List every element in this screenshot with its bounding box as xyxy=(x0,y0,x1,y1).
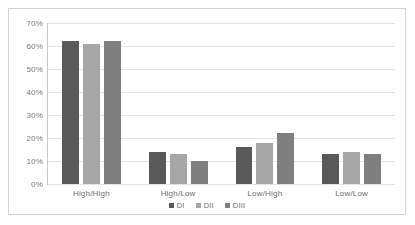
y-axis-tick-label: 70% xyxy=(26,19,43,28)
legend-item-DIII[interactable]: DIII xyxy=(225,201,245,210)
bar-DIII-High-Low xyxy=(191,161,208,184)
legend-swatch-icon xyxy=(196,203,201,208)
legend-swatch-icon xyxy=(169,203,174,208)
bar-DII-High-Low xyxy=(170,154,187,184)
bar-DIII-High-High xyxy=(104,41,121,184)
legend-label: DI xyxy=(177,201,185,210)
x-axis-category-label: High/Low xyxy=(135,189,222,198)
bar-DI-Low-Low xyxy=(322,154,339,184)
y-axis-tick-label: 30% xyxy=(26,111,43,120)
gridline-0: 0% xyxy=(48,184,395,185)
y-axis-tick-label: 60% xyxy=(26,42,43,51)
bar-group: High/Low xyxy=(135,23,222,184)
bar-DII-Low-High xyxy=(256,143,273,184)
bar-DII-High-High xyxy=(83,44,100,184)
legend-item-DII[interactable]: DII xyxy=(196,201,214,210)
bar-DIII-Low-Low xyxy=(364,154,381,184)
y-axis-tick-label: 20% xyxy=(26,134,43,143)
legend-swatch-icon xyxy=(225,203,230,208)
plot-area: 0%10%20%30%40%50%60%70% High/HighHigh/Lo… xyxy=(47,23,395,185)
y-axis-tick-label: 0% xyxy=(31,180,43,189)
y-axis-tick-label: 40% xyxy=(26,88,43,97)
y-axis-tick-label: 50% xyxy=(26,65,43,74)
bar-DI-High-High xyxy=(62,41,79,184)
legend-label: DIII xyxy=(233,201,245,210)
legend-item-DI[interactable]: DI xyxy=(169,201,185,210)
bar-DIII-Low-High xyxy=(277,133,294,184)
x-axis-category-label: Low/Low xyxy=(308,189,395,198)
bar-group: Low/High xyxy=(222,23,309,184)
bar-group: High/High xyxy=(48,23,135,184)
chart-legend: DIDIIDIII xyxy=(9,201,405,210)
y-axis-tick-label: 10% xyxy=(26,157,43,166)
bar-DI-High-Low xyxy=(149,152,166,184)
x-axis-category-label: Low/High xyxy=(222,189,309,198)
bar-DI-Low-High xyxy=(236,147,253,184)
bar-DII-Low-Low xyxy=(343,152,360,184)
bar-groups: High/HighHigh/LowLow/HighLow/Low xyxy=(48,23,395,184)
bar-group: Low/Low xyxy=(308,23,395,184)
x-axis-category-label: High/High xyxy=(48,189,135,198)
chart-frame: 0%10%20%30%40%50%60%70% High/HighHigh/Lo… xyxy=(8,8,406,215)
legend-label: DII xyxy=(204,201,214,210)
